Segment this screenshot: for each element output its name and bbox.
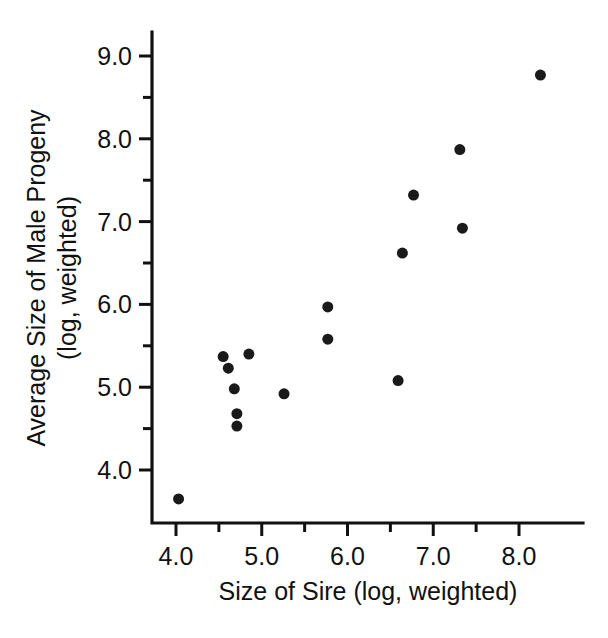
data-point — [231, 421, 242, 432]
scatter-plot-figure: 4.05.06.07.08.09.0 4.05.06.07.08.0 Size … — [0, 0, 608, 638]
x-tick-label: 5.0 — [244, 542, 279, 570]
data-point — [457, 223, 468, 234]
y-tick-label: 9.0 — [97, 42, 132, 70]
data-point — [322, 334, 333, 345]
data-point — [229, 383, 240, 394]
data-point — [397, 248, 408, 259]
y-axis-title-line-2: (log, weighted) — [53, 196, 81, 360]
data-point — [408, 190, 419, 201]
y-tick-label: 4.0 — [97, 456, 132, 484]
x-tick-label: 4.0 — [159, 542, 194, 570]
data-point — [218, 351, 229, 362]
y-tick-label: 6.0 — [97, 290, 132, 318]
data-point — [535, 70, 546, 81]
data-point — [279, 388, 290, 399]
y-tick-label: 5.0 — [97, 373, 132, 401]
y-tick-label: 8.0 — [97, 125, 132, 153]
plot-canvas: 4.05.06.07.08.09.0 4.05.06.07.08.0 Size … — [0, 0, 608, 638]
data-point — [231, 408, 242, 419]
data-point — [454, 144, 465, 155]
data-point — [223, 363, 234, 374]
x-tick-label: 7.0 — [416, 542, 451, 570]
data-point — [173, 493, 184, 504]
x-tick-label: 6.0 — [330, 542, 365, 570]
data-point — [243, 349, 254, 360]
x-axis-title: Size of Sire (log, weighted) — [219, 577, 518, 605]
data-point — [393, 375, 404, 386]
y-axis-title-line-1: Average Size of Male Progeny — [22, 109, 50, 447]
y-tick-label: 7.0 — [97, 208, 132, 236]
data-point — [322, 301, 333, 312]
x-tick-label: 8.0 — [502, 542, 537, 570]
